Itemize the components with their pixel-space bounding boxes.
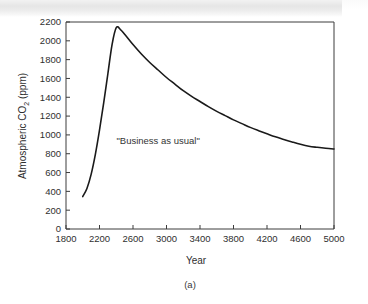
co2-line-chart: 0200400600800100012001400160018002000220… [0,0,368,304]
y-axis-title: Atmospheric CO2 (ppm) [17,73,30,179]
y-axis-ticks: 0200400600800100012001400160018002000220… [40,16,70,234]
x-tick-label: 3800 [223,233,244,244]
x-axis-title: Year [186,255,207,266]
y-tick-label: 1800 [40,54,61,65]
y-tick-label: 800 [45,148,61,159]
y-tick-label: 1000 [40,129,61,140]
plot-frame [66,22,334,229]
y-tick-label: 400 [45,186,61,197]
x-tick-label: 4200 [256,233,277,244]
x-tick-label: 2600 [122,233,143,244]
x-tick-label: 4600 [290,233,311,244]
business-as-usual-annotation: "Business as usual" [116,135,199,146]
y-tick-label: 2200 [40,16,61,27]
x-tick-label: 3400 [189,233,210,244]
x-tick-label: 2200 [89,233,110,244]
x-tick-label: 5000 [323,233,344,244]
figure-caption: (a) [184,279,196,290]
y-tick-label: 200 [45,205,61,216]
y-tick-label: 1400 [40,92,61,103]
x-tick-label: 1800 [55,233,76,244]
co2-curve [83,27,334,197]
y-tick-label: 1600 [40,73,61,84]
y-tick-label: 2000 [40,35,61,46]
y-tick-label: 600 [45,167,61,178]
x-tick-label: 3000 [156,233,177,244]
x-axis-ticks: 180022002600300034003800420046005000 [55,225,344,244]
figure-page: 0200400600800100012001400160018002000220… [0,0,368,304]
y-tick-label: 1200 [40,110,61,121]
